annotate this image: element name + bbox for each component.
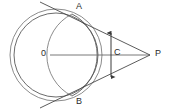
- label-point-p: P: [155, 49, 161, 58]
- tangent-line-lower: [40, 55, 150, 108]
- label-point-c: C: [114, 48, 121, 57]
- label-point-b: B: [76, 97, 82, 106]
- geometry-figure: A B 0 C P: [0, 0, 170, 111]
- label-point-a: A: [76, 2, 82, 11]
- label-center-o: 0: [41, 49, 46, 58]
- geometry-diagram-svg: [0, 0, 170, 111]
- tangent-line-upper: [40, 2, 150, 55]
